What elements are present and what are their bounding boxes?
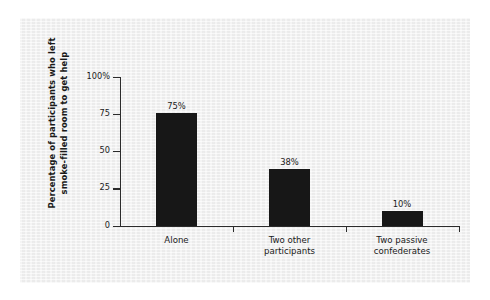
y-tick-label-100: 100% xyxy=(87,71,110,81)
category-label-two-passive-confederates-line-2: confederates xyxy=(352,246,453,257)
bar-two-other-participants[interactable]: 38% xyxy=(269,169,310,226)
category-label-two-other-participants-line-2: participants xyxy=(239,246,340,257)
category-label-two-passive-confederates: Two passive confederates xyxy=(352,235,453,257)
y-axis-line xyxy=(120,77,121,227)
y-tick-100: 100% xyxy=(113,77,120,78)
y-tick-0: 0 xyxy=(113,226,120,227)
x-tick-separator-3 xyxy=(459,227,460,232)
bar-value-two-passive-confederates: 10% xyxy=(393,199,412,209)
category-label-two-other-participants: Two other participants xyxy=(239,235,340,257)
y-axis-title-line-1: Percentage of participants who left xyxy=(47,35,59,211)
x-tick-separator-1 xyxy=(233,227,234,232)
y-tick-label-0: 0 xyxy=(105,220,110,230)
y-tick-label-50: 50 xyxy=(100,145,110,155)
y-tick-75: 75 xyxy=(113,114,120,115)
chart-figure: Percentage of participants who left smok… xyxy=(20,18,470,283)
category-label-alone: Alone xyxy=(126,235,227,246)
bar-value-two-other-participants: 38% xyxy=(280,157,299,167)
category-label-two-other-participants-line-1: Two other xyxy=(239,235,340,246)
category-label-two-passive-confederates-line-1: Two passive xyxy=(352,235,453,246)
x-axis-line xyxy=(120,226,460,227)
y-tick-label-25: 25 xyxy=(100,182,110,192)
y-axis-title: Percentage of participants who left smok… xyxy=(47,35,81,211)
y-tick-50: 50 xyxy=(113,151,120,152)
bar-value-alone: 75% xyxy=(167,101,186,111)
plot-area: 0 25 50 75 100% 75% 38% 10% Alone xyxy=(120,77,460,227)
bar-two-passive-confederates[interactable]: 10% xyxy=(382,211,423,226)
category-label-alone-line-1: Alone xyxy=(126,235,227,246)
y-tick-label-75: 75 xyxy=(100,108,110,118)
y-tick-25: 25 xyxy=(113,188,120,189)
x-tick-separator-2 xyxy=(346,227,347,232)
bar-alone[interactable]: 75% xyxy=(156,113,197,226)
y-axis-title-line-2: smoke-filled room to get help xyxy=(59,35,71,211)
